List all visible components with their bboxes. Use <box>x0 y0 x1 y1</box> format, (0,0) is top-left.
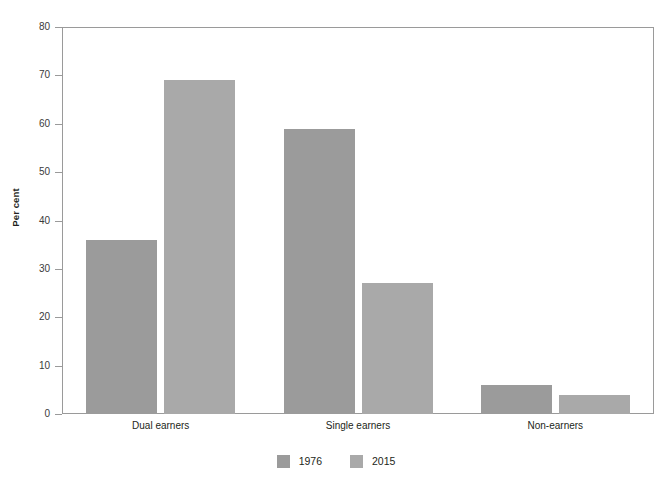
y-axis-tick-label: 70 <box>39 68 50 81</box>
y-axis-tick-mark <box>55 366 62 367</box>
y-axis-tick-mark <box>55 75 62 76</box>
bar-2015-non-earners <box>559 395 630 414</box>
y-axis-tick-mark <box>55 27 62 28</box>
y-axis-tick-label: 80 <box>39 20 50 33</box>
x-axis-label-non-earners: Non-earners <box>457 420 654 431</box>
legend-swatch-2015 <box>350 455 363 468</box>
bar-1976-non-earners <box>481 385 552 414</box>
y-axis-tick-mark <box>55 269 62 270</box>
y-axis-tick-label: 40 <box>39 214 50 227</box>
y-axis-tick-mark <box>55 124 62 125</box>
y-axis-tick-label: 20 <box>39 310 50 323</box>
bar-2015-single-earners <box>362 283 433 414</box>
y-axis-title: Per cent <box>0 0 30 414</box>
bar-1976-single-earners <box>284 129 355 414</box>
legend-label-1976: 1976 <box>299 455 322 467</box>
bar-2015-dual-earners <box>164 80 235 414</box>
legend-item-1976[interactable]: 1976 <box>277 455 322 468</box>
y-axis-tick-label: 50 <box>39 165 50 178</box>
y-axis-tick-label: 30 <box>39 262 50 275</box>
y-axis-tick-mark <box>55 317 62 318</box>
y-axis-tick-mark <box>55 172 62 173</box>
bar-1976-dual-earners <box>86 240 157 414</box>
y-axis-tick-mark <box>55 221 62 222</box>
legend-swatch-1976 <box>277 455 290 468</box>
x-axis-label-dual-earners: Dual earners <box>62 420 259 431</box>
y-axis-tick-label: 60 <box>39 117 50 130</box>
x-axis-category-labels: Dual earnersSingle earnersNon-earners <box>62 420 654 438</box>
x-axis-label-single-earners: Single earners <box>259 420 456 431</box>
bar-chart-figure: Per cent 01020304050607080 Dual earnersS… <box>0 0 672 482</box>
y-axis-tick-label: 0 <box>44 407 50 420</box>
chart-legend: 19762015 <box>0 451 672 471</box>
bars-layer <box>62 27 654 414</box>
y-axis-title-label: Per cent <box>10 188 21 226</box>
legend-item-2015[interactable]: 2015 <box>350 455 395 468</box>
y-axis-tick-mark <box>55 414 62 415</box>
legend-label-2015: 2015 <box>372 455 395 467</box>
y-axis-tick-label: 10 <box>39 359 50 372</box>
